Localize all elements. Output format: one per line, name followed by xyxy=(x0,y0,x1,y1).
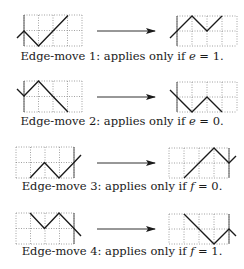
caption-edge-move-2: Edge-move 2: applies only if e = 0. xyxy=(0,114,244,128)
edge-moves-diagram xyxy=(0,0,244,269)
caption-condition: = 1. xyxy=(196,49,224,63)
caption-variable: e xyxy=(189,49,196,63)
after-path xyxy=(170,16,222,38)
caption-edge-move-4: Edge-move 4: applies only if f = 1. xyxy=(0,244,244,258)
caption-edge-move-3: Edge-move 3: applies only if f = 0. xyxy=(0,179,244,193)
caption-condition: = 1. xyxy=(194,244,222,258)
edge-move-4 xyxy=(16,213,236,244)
edge-move-1 xyxy=(17,15,237,46)
caption-text: Edge-move 1: applies only if xyxy=(20,49,189,63)
caption-condition: = 0. xyxy=(194,179,222,193)
caption-edge-move-1: Edge-move 1: applies only if e = 1. xyxy=(0,49,244,63)
after-path xyxy=(170,90,222,112)
before-path xyxy=(30,155,81,178)
caption-text: Edge-move 3: applies only if xyxy=(22,179,191,193)
edge-move-2 xyxy=(17,81,237,112)
caption-condition: = 0. xyxy=(196,114,224,128)
caption-text: Edge-move 2: applies only if xyxy=(20,114,189,128)
edge-move-3 xyxy=(16,147,236,178)
caption-variable: e xyxy=(189,114,196,128)
before-path xyxy=(30,213,81,236)
caption-text: Edge-move 4: applies only if xyxy=(22,244,191,258)
